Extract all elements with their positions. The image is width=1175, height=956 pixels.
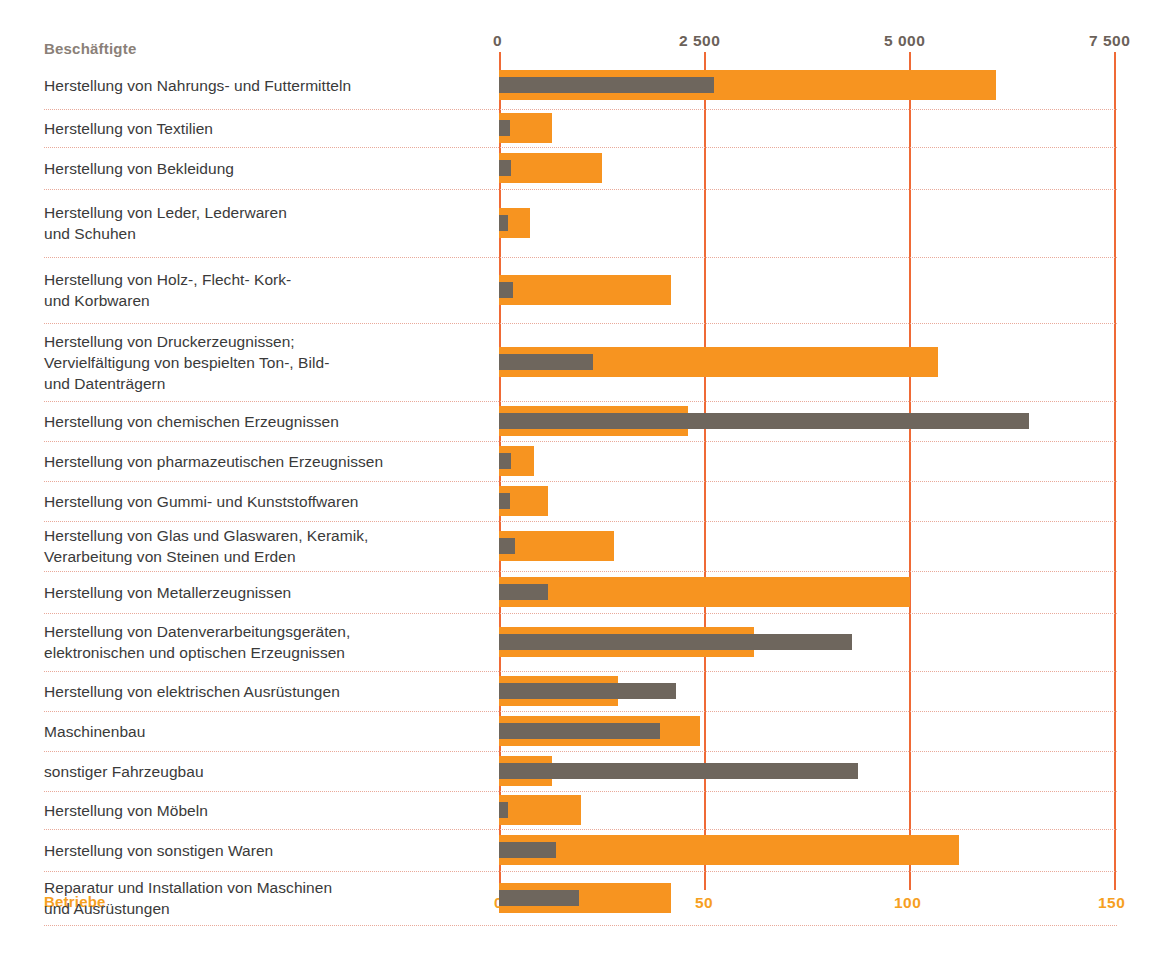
row-label: Herstellung von Leder, Lederwarenund Sch… bbox=[44, 202, 494, 244]
row-label-line: Reparatur und Installation von Maschinen bbox=[44, 877, 494, 898]
row-label: Herstellung von elektrischen Ausrüstunge… bbox=[44, 681, 494, 702]
bar-beschaeftigte bbox=[499, 538, 515, 554]
bar-beschaeftigte bbox=[499, 120, 510, 136]
chart-row: Herstellung von Textilien bbox=[0, 110, 1175, 148]
bar-betriebe bbox=[499, 795, 581, 825]
chart-row: Herstellung von Druckerzeugnissen;Vervie… bbox=[0, 324, 1175, 402]
bar-beschaeftigte bbox=[499, 215, 508, 231]
row-label: Reparatur und Installation von Maschinen… bbox=[44, 877, 494, 919]
row-label: Herstellung von Textilien bbox=[44, 118, 494, 139]
chart-row: Herstellung von Bekleidung bbox=[0, 148, 1175, 190]
bar-beschaeftigte bbox=[499, 723, 660, 739]
bar-betriebe bbox=[499, 577, 910, 607]
row-label: Herstellung von Möbeln bbox=[44, 800, 494, 821]
row-label-line: und Korbwaren bbox=[44, 290, 494, 311]
row-label-line: Herstellung von Bekleidung bbox=[44, 158, 494, 179]
row-label-line: und Datenträgern bbox=[44, 373, 494, 394]
bar-beschaeftigte bbox=[499, 413, 1029, 429]
bar-beschaeftigte bbox=[499, 842, 556, 858]
row-separator bbox=[44, 925, 1117, 926]
chart-row: Herstellung von Holz-, Flecht- Kork-und … bbox=[0, 258, 1175, 324]
row-label-line: Herstellung von Nahrungs- und Futtermitt… bbox=[44, 75, 494, 96]
row-label-line: Herstellung von Gummi- und Kunststoffwar… bbox=[44, 491, 494, 512]
bar-beschaeftigte bbox=[499, 354, 593, 370]
chart-row: Herstellung von Möbeln bbox=[0, 792, 1175, 830]
bar-beschaeftigte bbox=[499, 634, 852, 650]
row-label: Herstellung von Bekleidung bbox=[44, 158, 494, 179]
row-label-line: Herstellung von elektrischen Ausrüstunge… bbox=[44, 681, 494, 702]
row-label: Herstellung von Datenverarbeitungsgeräte… bbox=[44, 621, 494, 663]
chart-row: Reparatur und Installation von Maschinen… bbox=[0, 872, 1175, 926]
chart-row: Herstellung von sonstigen Waren bbox=[0, 830, 1175, 872]
chart-row: Herstellung von elektrischen Ausrüstunge… bbox=[0, 672, 1175, 712]
bar-beschaeftigte bbox=[499, 282, 513, 298]
bar-beschaeftigte bbox=[499, 763, 858, 779]
row-label-line: und Schuhen bbox=[44, 223, 494, 244]
row-label-line: Herstellung von Glas und Glaswaren, Kera… bbox=[44, 525, 494, 546]
chart-row: Herstellung von Metallerzeugnissen bbox=[0, 572, 1175, 614]
row-label-line: Herstellung von Datenverarbeitungsgeräte… bbox=[44, 621, 494, 642]
top-tick-5000: 5 000 bbox=[884, 32, 925, 50]
row-label-line: Verarbeitung von Steinen und Erden bbox=[44, 546, 494, 567]
bar-beschaeftigte bbox=[499, 77, 714, 93]
bar-beschaeftigte bbox=[499, 453, 511, 469]
chart-row: Herstellung von Gummi- und Kunststoffwar… bbox=[0, 482, 1175, 522]
bar-beschaeftigte bbox=[499, 160, 511, 176]
chart-row: Herstellung von Leder, Lederwarenund Sch… bbox=[0, 190, 1175, 258]
chart-row: Herstellung von pharmazeutischen Erzeugn… bbox=[0, 442, 1175, 482]
row-label: sonstiger Fahrzeugbau bbox=[44, 761, 494, 782]
row-label: Maschinenbau bbox=[44, 721, 494, 742]
row-label: Herstellung von Metallerzeugnissen bbox=[44, 582, 494, 603]
row-label-line: Vervielfältigung von bespielten Ton-, Bi… bbox=[44, 352, 494, 373]
row-label: Herstellung von Nahrungs- und Futtermitt… bbox=[44, 75, 494, 96]
bar-beschaeftigte bbox=[499, 584, 548, 600]
top-tick-7500: 7 500 bbox=[1089, 32, 1130, 50]
row-label-line: Herstellung von Druckerzeugnissen; bbox=[44, 331, 494, 352]
row-label: Herstellung von pharmazeutischen Erzeugn… bbox=[44, 451, 494, 472]
row-label-line: Herstellung von Holz-, Flecht- Kork- bbox=[44, 269, 494, 290]
row-label-line: elektronischen und optischen Erzeugnisse… bbox=[44, 642, 494, 663]
row-label: Herstellung von Glas und Glaswaren, Kera… bbox=[44, 525, 494, 567]
top-tick-2500: 2 500 bbox=[679, 32, 720, 50]
bar-betriebe bbox=[499, 275, 671, 305]
row-label-line: sonstiger Fahrzeugbau bbox=[44, 761, 494, 782]
row-label: Herstellung von Druckerzeugnissen;Vervie… bbox=[44, 331, 494, 394]
chart-row: Maschinenbau bbox=[0, 712, 1175, 752]
chart-row: Herstellung von Glas und Glaswaren, Kera… bbox=[0, 522, 1175, 572]
row-label-line: Herstellung von chemischen Erzeugnissen bbox=[44, 411, 494, 432]
bar-beschaeftigte bbox=[499, 890, 579, 906]
row-label: Herstellung von chemischen Erzeugnissen bbox=[44, 411, 494, 432]
chart-row: sonstiger Fahrzeugbau bbox=[0, 752, 1175, 792]
chart-row: Herstellung von Datenverarbeitungsgeräte… bbox=[0, 614, 1175, 672]
bar-chart: Beschäftigte Betriebe 0 2 500 5 000 7 50… bbox=[0, 0, 1175, 956]
bar-beschaeftigte bbox=[499, 493, 510, 509]
row-label-line: und Ausrüstungen bbox=[44, 898, 494, 919]
bar-betriebe bbox=[499, 153, 602, 183]
row-label-line: Herstellung von Möbeln bbox=[44, 800, 494, 821]
row-label: Herstellung von Gummi- und Kunststoffwar… bbox=[44, 491, 494, 512]
row-label-line: Maschinenbau bbox=[44, 721, 494, 742]
chart-row: Herstellung von chemischen Erzeugnissen bbox=[0, 402, 1175, 442]
row-label-line: Herstellung von Leder, Lederwaren bbox=[44, 202, 494, 223]
row-label-line: Herstellung von Textilien bbox=[44, 118, 494, 139]
bar-beschaeftigte bbox=[499, 802, 508, 818]
row-label-line: Herstellung von sonstigen Waren bbox=[44, 840, 494, 861]
bar-betriebe bbox=[499, 835, 959, 865]
axis-title-beschaeftigte: Beschäftigte bbox=[44, 40, 136, 57]
top-tick-0: 0 bbox=[493, 32, 502, 50]
row-label: Herstellung von Holz-, Flecht- Kork-und … bbox=[44, 269, 494, 311]
bar-betriebe bbox=[499, 531, 614, 561]
chart-row: Herstellung von Nahrungs- und Futtermitt… bbox=[0, 62, 1175, 110]
row-label-line: Herstellung von Metallerzeugnissen bbox=[44, 582, 494, 603]
row-label-line: Herstellung von pharmazeutischen Erzeugn… bbox=[44, 451, 494, 472]
bar-beschaeftigte bbox=[499, 683, 676, 699]
row-label: Herstellung von sonstigen Waren bbox=[44, 840, 494, 861]
